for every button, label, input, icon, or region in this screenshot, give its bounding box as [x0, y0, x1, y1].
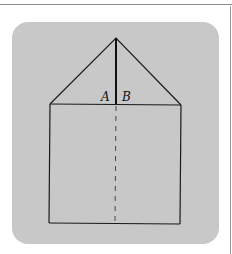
square-bottom-side — [49, 223, 180, 224]
label-b: B — [121, 90, 131, 104]
square-right-side — [180, 105, 181, 224]
square-left-side — [49, 104, 50, 223]
dashed-center-line — [115, 106, 116, 222]
triangle-base — [50, 104, 181, 105]
label-a: A — [100, 90, 110, 104]
house-figure: A B — [0, 0, 232, 254]
